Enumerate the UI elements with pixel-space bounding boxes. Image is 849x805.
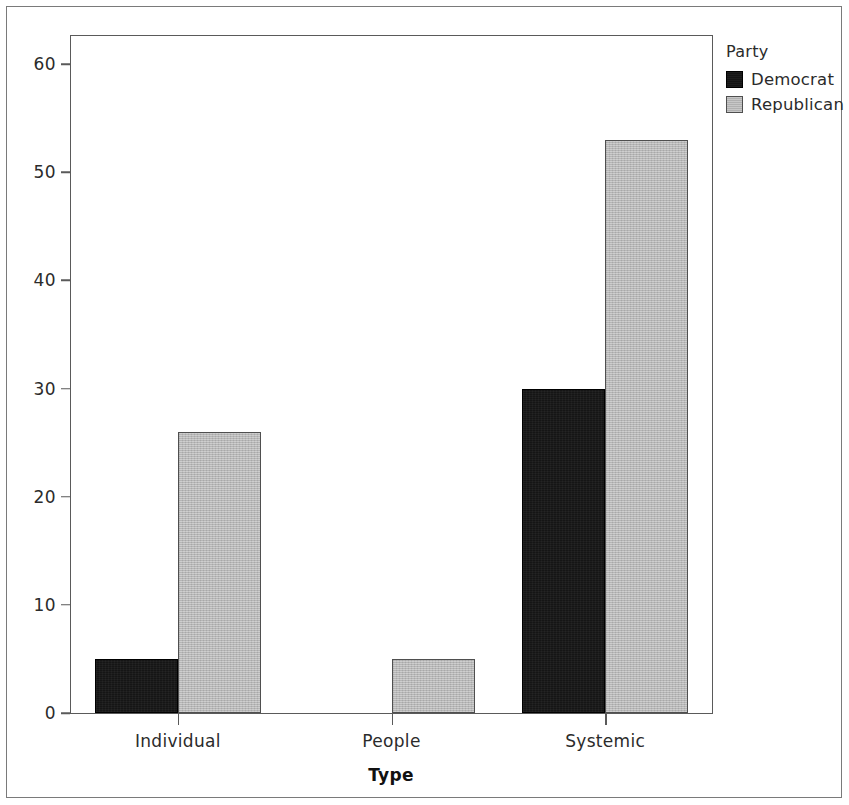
y-axis-tick-label: 0	[45, 703, 56, 723]
x-axis-tick-mark	[605, 714, 607, 725]
legend-item-democrat[interactable]: Democrat	[726, 70, 846, 89]
x-axis-tick-label: People	[362, 731, 420, 751]
bar-systemic-democrat	[522, 389, 605, 713]
bar-individual-democrat	[95, 659, 178, 713]
y-axis-tick-mark	[61, 63, 70, 65]
y-axis-tick-label: 50	[34, 162, 56, 182]
y-axis-tick-mark	[61, 280, 70, 282]
y-axis-tick-label: 20	[34, 487, 56, 507]
legend-item-republican[interactable]: Republican	[726, 95, 846, 114]
y-axis-tick-label: 60	[34, 54, 56, 74]
legend-swatch-republican-icon	[726, 96, 743, 113]
x-axis-tick-mark	[178, 714, 180, 725]
bar-systemic-republican	[605, 140, 688, 713]
x-axis-tick-label: Individual	[135, 731, 221, 751]
y-axis-tick-label: 30	[34, 379, 56, 399]
x-axis-title: Type	[368, 765, 414, 785]
x-axis-tick-label: Systemic	[565, 731, 645, 751]
y-axis-tick-mark	[61, 172, 70, 174]
y-axis-tick-mark	[61, 604, 70, 606]
plot-area	[71, 36, 712, 713]
chart-legend: Party DemocratRepublican	[726, 42, 846, 120]
legend-title: Party	[726, 42, 846, 61]
legend-entries: DemocratRepublican	[726, 70, 846, 114]
y-axis-tick-mark	[61, 388, 70, 390]
chart-page: 0102030405060 IndividualPeopleSystemic T…	[0, 0, 849, 805]
y-axis-tick-label: 10	[34, 595, 56, 615]
x-axis-tick-mark	[392, 714, 394, 725]
y-axis-tick-label: 40	[34, 270, 56, 290]
y-axis-tick-mark	[61, 496, 70, 498]
legend-swatch-democrat-icon	[726, 71, 743, 88]
y-axis-tick-mark	[61, 712, 70, 714]
legend-item-label: Democrat	[751, 70, 834, 89]
bar-people-republican	[392, 659, 475, 713]
bar-individual-republican	[178, 432, 261, 713]
legend-item-label: Republican	[751, 95, 844, 114]
